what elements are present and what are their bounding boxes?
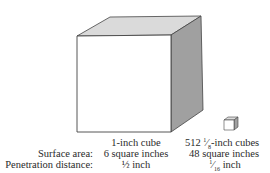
small-cube xyxy=(224,117,238,130)
surface-area-label: Surface area: xyxy=(0,148,93,159)
small-cubes-label: 512 1⁄8-inch cubes xyxy=(172,137,270,148)
large-cube-penetration-distance: ½ inch xyxy=(110,159,162,170)
large-cube-surface-area: 6 square inches xyxy=(90,148,182,159)
small-cube-front-face xyxy=(224,120,234,130)
small-cubes-penetration-distance: 1⁄16 inch xyxy=(190,159,260,170)
small-cubes-count: 512 xyxy=(185,137,201,148)
large-cube-front-face xyxy=(77,35,171,132)
large-cube-label: 1-inch cube xyxy=(100,137,172,148)
penetration-distance-label: Penetration distance: xyxy=(0,159,93,170)
large-cube xyxy=(77,16,203,132)
small-cubes-surface-area: 48 square inches xyxy=(176,148,270,159)
large-cube-side-face xyxy=(171,16,203,132)
